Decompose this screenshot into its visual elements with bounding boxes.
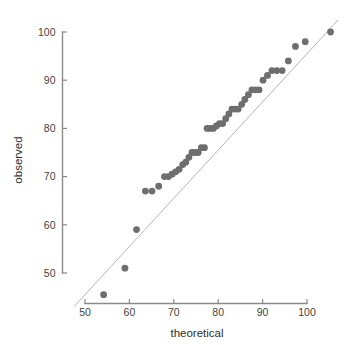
data-point: [142, 188, 149, 195]
data-point: [149, 188, 156, 195]
y-axis-tick-label: 90: [44, 74, 56, 86]
x-axis: 5060708090100: [79, 299, 316, 318]
y-axis-tick-label: 80: [44, 122, 56, 134]
reference-line: [74, 20, 338, 307]
x-axis-tick-label: 80: [212, 306, 224, 318]
data-point: [201, 144, 208, 151]
data-point: [122, 265, 129, 272]
data-point: [279, 67, 286, 74]
y-axis-tick-label: 70: [44, 170, 56, 182]
x-axis-tick-label: 60: [124, 306, 136, 318]
data-point: [292, 43, 299, 50]
data-point: [133, 226, 140, 233]
y-axis-title: observed: [12, 136, 24, 183]
data-point: [100, 291, 107, 298]
y-axis: 5060708090100: [38, 26, 67, 279]
identity-line: [74, 20, 338, 307]
y-axis-tick-label: 50: [44, 267, 56, 279]
qq-plot-figure: 5060708090100 5060708090100 theoretical …: [0, 0, 349, 345]
data-points: [100, 29, 334, 298]
x-axis-tick-label: 100: [298, 306, 316, 318]
y-axis-tick-label: 60: [44, 219, 56, 231]
data-point: [256, 86, 263, 93]
plot-canvas: 5060708090100 5060708090100 theoretical …: [0, 0, 349, 345]
y-axis-tick-label: 100: [38, 26, 56, 38]
x-axis-tick-label: 90: [257, 306, 269, 318]
x-axis-tick-label: 70: [168, 306, 180, 318]
x-axis-title: theoretical: [170, 327, 223, 339]
data-point: [285, 58, 292, 65]
data-point: [302, 38, 309, 45]
data-point: [155, 183, 162, 190]
x-axis-tick-label: 50: [79, 306, 91, 318]
data-point: [327, 29, 334, 36]
